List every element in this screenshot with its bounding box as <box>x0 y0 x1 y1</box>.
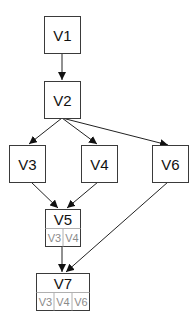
node-v5: V5 V3 V4 <box>46 210 81 247</box>
node-v4-label: V4 <box>90 156 108 173</box>
node-v7-sub-v3: V3 <box>39 296 52 308</box>
node-v1-label: V1 <box>53 27 71 44</box>
node-v7-sub-v4: V4 <box>56 296 69 308</box>
edge-v2-v6 <box>62 118 168 145</box>
edge-v2-v4 <box>62 118 97 144</box>
node-v2-label: V2 <box>53 92 71 109</box>
node-v7: V7 V3 V4 V6 <box>37 274 90 311</box>
node-v5-sub-v4: V4 <box>65 232 78 244</box>
edge-v3-v5 <box>31 182 58 208</box>
node-v5-sub-v3: V3 <box>48 232 61 244</box>
node-v7-sub-v6: V6 <box>74 296 87 308</box>
node-v3: V3 <box>10 146 46 183</box>
node-v5-label: V5 <box>54 211 72 228</box>
dependency-graph: V1 V2 V3 V4 V6 V5 V3 V4 V7 V3 V4 V6 <box>0 0 196 331</box>
node-v6-label: V6 <box>161 156 179 173</box>
node-v6: V6 <box>153 146 189 183</box>
node-v7-label: V7 <box>54 275 72 292</box>
node-v1: V1 <box>45 17 81 54</box>
node-v3-label: V3 <box>18 156 36 173</box>
node-v2: V2 <box>45 82 81 119</box>
node-v4: V4 <box>82 146 118 183</box>
edge-v4-v5 <box>67 182 98 208</box>
edge-v2-v3 <box>29 118 62 144</box>
